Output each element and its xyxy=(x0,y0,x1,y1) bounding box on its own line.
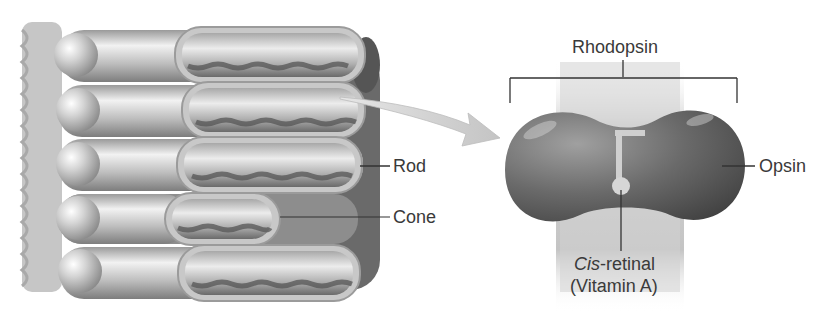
label-cis-retinal: Cis-retinal xyxy=(574,255,655,273)
label-opsin: Opsin xyxy=(759,157,806,175)
label-cone: Cone xyxy=(393,208,436,226)
rhodopsin-illustration xyxy=(505,60,755,312)
label-vitamin-a: (Vitamin A) xyxy=(570,277,658,295)
photoreceptor-illustration xyxy=(22,22,380,301)
label-rhodopsin: Rhodopsin xyxy=(572,38,658,56)
label-cis-prefix: Cis xyxy=(574,254,600,274)
label-cis-suffix: -retinal xyxy=(600,254,655,274)
label-rod: Rod xyxy=(393,157,426,175)
diagram-stage: Rod Cone Rhodopsin Opsin Cis-retinal (Vi… xyxy=(0,0,833,321)
